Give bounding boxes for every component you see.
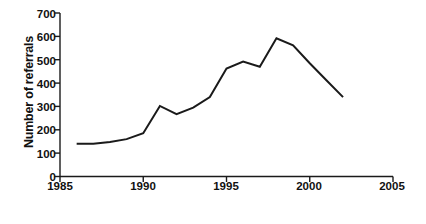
x-axis-ticks [60, 177, 393, 183]
figure: Number of referrals 700 600 500 400 300 … [0, 0, 426, 224]
y-axis-ticks [55, 13, 61, 177]
referrals-line-series [77, 38, 343, 144]
plot-area [0, 0, 426, 224]
